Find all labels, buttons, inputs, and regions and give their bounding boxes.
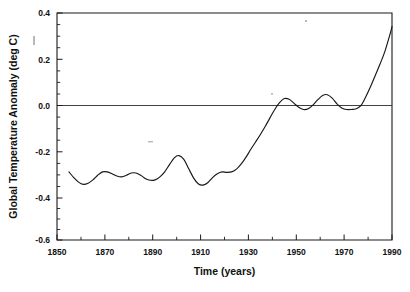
y-tick-label: 0.4: [38, 8, 50, 18]
x-tick-label: 1890: [143, 247, 162, 257]
temperature-anomaly-line-chart: 0.4 0.2 0.0 -0.2 -0.4 -0.6 1850 1870 189…: [0, 0, 410, 292]
x-tick-label: 1930: [239, 247, 258, 257]
y-tick-label: -0.2: [35, 147, 50, 157]
y-tick-label: 0.0: [38, 101, 50, 111]
x-tick-label: 1850: [48, 247, 67, 257]
x-tick-label: 1950: [287, 247, 306, 257]
x-tick-label: 1970: [335, 247, 354, 257]
x-tick-label: 1990: [383, 247, 402, 257]
x-axis-title: Time (years): [194, 265, 256, 277]
x-tick-label: 1870: [95, 247, 114, 257]
y-tick-label: -0.6: [35, 235, 50, 245]
x-tick-label: 1910: [191, 247, 210, 257]
y-tick-label: 0.2: [38, 55, 50, 65]
y-axis-title: Global Temperature Anomaly (deg C): [7, 34, 19, 218]
y-tick-label: -0.4: [35, 193, 50, 203]
chart-figure: 0.4 0.2 0.0 -0.2 -0.4 -0.6 1850 1870 189…: [0, 0, 410, 292]
